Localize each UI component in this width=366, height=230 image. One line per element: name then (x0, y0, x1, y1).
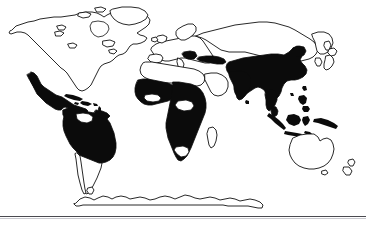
region-manchuria (293, 46, 306, 57)
inner-unshaded-patch-central-africa (175, 100, 194, 111)
region-korea (315, 58, 322, 66)
region-new-zealand-north (348, 159, 355, 166)
footer-divider-highlight (0, 218, 366, 219)
inner-unshaded-patch-west-africa (144, 94, 161, 102)
region-sakhalin (324, 41, 331, 50)
world-map-svg (0, 0, 366, 214)
antarctic-peninsula (87, 187, 94, 194)
arctic-island-f (103, 40, 115, 47)
footer-divider-rule (0, 216, 366, 217)
arctic-island-a (78, 12, 91, 18)
map-canvas (0, 0, 366, 214)
world-map-figure (0, 0, 366, 230)
region-australia (289, 134, 334, 169)
